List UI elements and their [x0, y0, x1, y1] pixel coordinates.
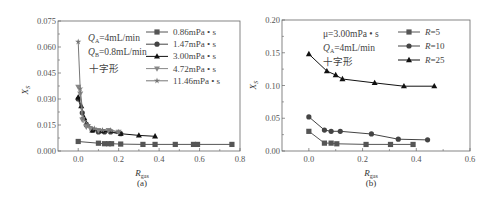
square-marker [306, 129, 311, 134]
square-marker [195, 142, 200, 147]
triangle-down-marker [154, 66, 160, 71]
square-marker [410, 142, 415, 147]
legend-item: 11.46mPa • s [146, 76, 221, 86]
x-tick-label: 0.6 [465, 154, 476, 164]
annotation-qa-a: QA=4mL/min [88, 33, 140, 44]
legend-item: 1.47mPa • s [146, 39, 216, 49]
legend-label: 4.72mPa • s [173, 64, 216, 74]
square-marker [140, 142, 145, 147]
y-tick-label: 0.10 [265, 81, 280, 91]
series-R=10 [306, 114, 430, 142]
square-marker [334, 141, 339, 146]
square-marker [388, 142, 393, 147]
series-0.86mPa•s [76, 139, 235, 147]
legend-label: R=10 [424, 41, 445, 51]
legend-item: 4.72mPa • s [146, 64, 216, 74]
caption-a: (a) [137, 178, 147, 188]
y-tick-label: 0.060 [37, 42, 56, 52]
x-tick-label: 0.4 [154, 154, 165, 164]
legend-item: 0.86mPa • s [146, 27, 216, 37]
legend-label: 11.46mPa • s [173, 76, 221, 86]
circle-marker [338, 129, 343, 134]
legend-label: 1.47mPa • s [173, 39, 216, 49]
square-marker [322, 141, 327, 146]
caption-b: (b) [366, 178, 377, 188]
annotation-mu-b: μ=3.00mPa • s [323, 29, 379, 39]
circle-marker [329, 129, 334, 134]
square-marker [109, 141, 114, 146]
annotation-qb-a: QB=0.8mL/min [88, 47, 147, 58]
square-marker [118, 141, 123, 146]
circle-marker [406, 43, 411, 48]
annotation-shape-b: 十字形 [323, 56, 353, 67]
legend-label: 3.00mPa • s [173, 51, 216, 61]
y-tick-label: 0.00 [265, 146, 280, 156]
legend-item: 3.00mPa • s [146, 51, 216, 61]
y-tick-label: 0.05 [265, 113, 280, 123]
x-tick-label: 0.8 [235, 154, 246, 164]
legend-item: R=10 [398, 41, 445, 51]
legend-item: R=5 [398, 27, 441, 37]
y-tick-label: 0.15 [265, 48, 280, 58]
legend-label: R=25 [424, 55, 445, 65]
circle-marker [369, 131, 374, 136]
square-marker [363, 142, 368, 147]
legend-label: 0.86mPa • s [173, 27, 216, 37]
square-marker [229, 142, 234, 147]
circle-marker [425, 137, 430, 142]
x-tick-label: 0.0 [304, 154, 315, 164]
x-tick-label: 0.6 [194, 154, 205, 164]
x-tick-label: 0.4 [411, 154, 422, 164]
square-marker [76, 139, 81, 144]
y-axis-label-a: XS [20, 85, 31, 96]
y-tick-label: 0.20 [265, 15, 280, 25]
figure: 0.0000.0150.0300.0450.0600.0750.00.20.40… [0, 0, 483, 198]
square-marker [173, 142, 178, 147]
legend-label: R=5 [424, 27, 441, 37]
y-tick-label: 0.045 [37, 68, 56, 78]
circle-marker [306, 114, 311, 119]
y-axis-label-b: XS [248, 80, 259, 91]
x-tick-label: 0.2 [113, 154, 124, 164]
y-tick-label: 0.075 [37, 16, 56, 26]
legend-a: 0.86mPa • s1.47mPa • s3.00mPa • s4.72mPa… [146, 27, 221, 86]
square-marker [154, 29, 159, 34]
triangle-up-marker [431, 83, 437, 88]
annotation-qa-b: QA=4mL/min [323, 43, 375, 54]
circle-marker [396, 137, 401, 142]
annotation-shape-a: 十字形 [89, 63, 119, 74]
square-marker [406, 29, 411, 34]
circle-marker [154, 42, 159, 47]
square-marker [329, 141, 334, 146]
y-tick-label: 0.015 [37, 120, 56, 130]
legend-b: R=5R=10R=25 [398, 27, 445, 65]
triangle-up-marker [339, 76, 345, 81]
square-marker [152, 142, 157, 147]
y-tick-label: 0.030 [37, 94, 56, 104]
triangle-up-marker [306, 51, 312, 56]
x-tick-label: 0.0 [73, 154, 84, 164]
axes-a: 0.0000.0150.0300.0450.0600.0750.00.20.40… [37, 16, 245, 164]
y-tick-label: 0.000 [37, 146, 56, 156]
circle-marker [322, 127, 327, 132]
x-tick-label: 0.2 [357, 154, 368, 164]
legend-item: R=25 [398, 55, 445, 65]
square-marker [96, 141, 101, 146]
